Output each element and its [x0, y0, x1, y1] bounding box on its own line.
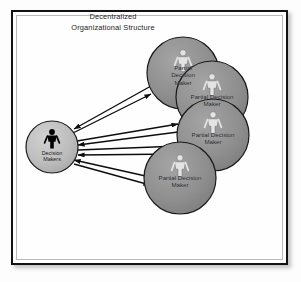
diagram-canvas: Decentralized Organizational Structure	[0, 0, 301, 282]
diagram-graphics	[0, 0, 301, 282]
link-center-node2	[77, 124, 178, 145]
partial-decision-maker-4[interactable]	[144, 142, 216, 214]
link-center-node4	[74, 160, 150, 185]
arrow-to-center-from-1	[74, 86, 151, 129]
center-decision-makers-node[interactable]	[26, 121, 78, 173]
arrow-to-partial-1	[73, 94, 151, 133]
link-center-node1	[73, 86, 151, 133]
